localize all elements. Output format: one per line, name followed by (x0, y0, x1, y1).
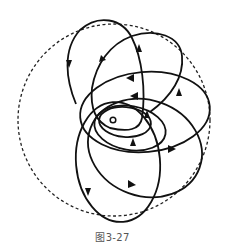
arrow-icon (130, 138, 136, 146)
orbit-diagram (0, 0, 225, 225)
focus-marker (110, 117, 116, 123)
arrow-icon (85, 188, 91, 196)
arrow-icon (128, 180, 136, 188)
orbit-ellipse-3 (77, 66, 213, 157)
figure-caption: 图3-27 (0, 229, 225, 244)
arrow-icon (176, 88, 182, 96)
orbit-ellipse-4 (74, 83, 216, 213)
orbit-diagram-svg (0, 0, 225, 225)
orbit-ellipse-5 (71, 99, 165, 225)
direction-arrows (66, 44, 182, 196)
orbit-paths (68, 20, 216, 225)
